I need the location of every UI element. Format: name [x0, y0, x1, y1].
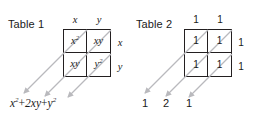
table-2-diagonal-sum-1: 2	[159, 98, 173, 109]
table-2-row-header-1: 1	[235, 62, 247, 72]
table-2-cell-1-1: 1	[208, 53, 231, 76]
table-1-sum-expression: x2+2xy+y2	[10, 98, 56, 110]
table-2-col-header-1: 1	[208, 15, 232, 25]
table-2-cell-1-0: 1	[185, 53, 208, 76]
table-1-grid: x2 xy xy y2	[63, 29, 111, 77]
table-2-row-header-0: 1	[235, 38, 247, 48]
table-2-diagonal-sum-2: 1	[182, 98, 196, 109]
table-2-cell-0-1: 1	[208, 30, 231, 53]
table-2-col-header-0: 1	[184, 15, 208, 25]
table-1-cell-1-0-label: xy	[70, 59, 79, 70]
table-1-cell-0-1: xy	[87, 30, 110, 53]
table-1-col-header-0: x	[63, 15, 87, 26]
table-1-row-header-0: x	[114, 38, 126, 49]
table-2-title: Table 2	[136, 18, 172, 30]
sum-term-3: y2	[48, 97, 57, 109]
figure-root: Table 1 x y x y x2 xy xy y2 x2+2xy+y2	[0, 0, 261, 121]
table-1-cell-0-0: x2	[64, 30, 87, 53]
table-2-panel: Table 2 1 1 1 1 1 1 1 1 1 2 1	[130, 0, 261, 121]
table-1-cell-0-1-label: xy	[94, 36, 103, 47]
table-2-cell-0-0-label: 1	[193, 36, 199, 46]
table-2-cell-0-1-label: 1	[217, 36, 223, 46]
table-1-panel: Table 1 x y x y x2 xy xy y2 x2+2xy+y2	[0, 0, 131, 121]
table-1-cell-1-1-label: y2	[95, 59, 103, 70]
table-2-diagonal-sum-0: 1	[138, 98, 152, 109]
table-2-cell-1-0-label: 1	[193, 60, 199, 70]
table-1-cell-1-1: y2	[87, 53, 110, 76]
table-1-cell-0-0-label: x2	[71, 36, 79, 47]
table-1-row-header-1: y	[114, 62, 126, 73]
sum-term-2: 2xy	[25, 97, 41, 109]
table-1-title: Table 1	[8, 18, 44, 30]
table-1-cell-1-0: xy	[64, 53, 87, 76]
table-2-grid: 1 1 1 1	[184, 29, 232, 77]
table-2-cell-1-1-label: 1	[217, 60, 223, 70]
table-2-cell-0-0: 1	[185, 30, 208, 53]
table-1-col-header-1: y	[87, 15, 111, 26]
sum-term-1: x2	[10, 97, 19, 109]
